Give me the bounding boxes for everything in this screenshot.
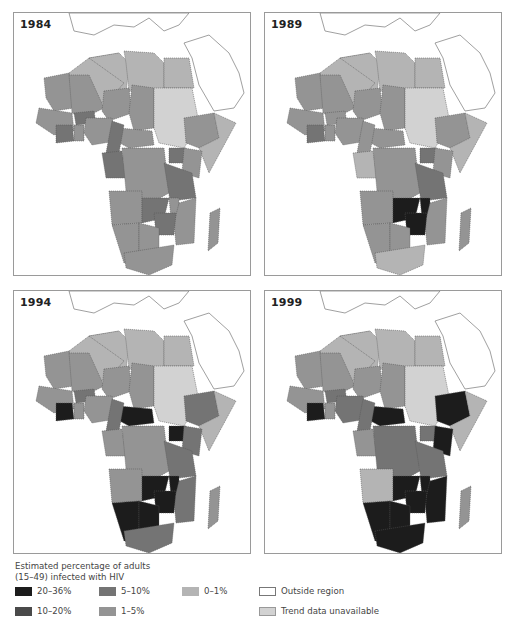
legend-title-line1: Estimated percentage of adults [15,561,150,572]
country-madagascar [459,486,471,529]
legend-item-1-5: 1–5% [99,606,144,616]
legend-item-10-20: 10–20% [15,606,71,616]
country-madagascar [208,486,220,529]
country-ghana [74,403,84,419]
year-label: 1984 [20,18,51,31]
legend-label: 1–5% [121,606,144,616]
year-label: 1999 [271,296,302,309]
swatch-10-20 [15,607,32,616]
country-egypt [164,58,194,88]
swatch-outside-region [259,587,276,596]
legend-item-0-1: 0–1% [182,586,227,596]
country-chad [380,85,405,131]
year-label: 1994 [20,296,51,309]
swatch-5-10 [99,587,116,596]
legend-label: 0–1% [204,586,227,596]
country-ghana [325,125,335,141]
map-panel-1989: 1989 [264,12,502,276]
legend-label: Outside region [281,586,344,596]
country-madagascar [459,208,471,251]
country-ivory [307,125,325,143]
country-niger [102,366,132,399]
legend-title: Estimated percentage of adults (15–49) i… [15,561,150,582]
country-egypt [164,336,194,366]
country-chad [129,363,154,409]
country-gabon [102,151,126,178]
country-niger [353,88,383,121]
country-angola [360,191,393,225]
map-panel-1984: 1984 [13,12,251,276]
map-panel-1999: 1999 [264,290,502,554]
country-madagascar [208,208,220,251]
country-angola [360,469,393,503]
legend-label: 20–36% [37,586,71,596]
country-egypt [415,58,445,88]
legend-label: 10–20% [37,606,71,616]
legend-item-5-10: 5–10% [99,586,150,596]
legend-item-outside-region: Outside region [259,586,344,596]
africa-map-1999 [265,291,502,554]
legend-item-trend-unavailable: Trend data unavailable [259,606,379,616]
country-ivory [307,403,325,421]
country-chad [129,85,154,131]
africa-map-1994 [14,291,251,554]
country-ghana [325,403,335,419]
country-angola [109,191,142,225]
africa-map-1989 [265,13,502,276]
swatch-20-36 [15,587,32,596]
legend-title-line2: (15–49) infected with HIV [15,572,150,583]
legend-label: 5–10% [121,586,150,596]
country-gabon [353,151,377,178]
country-chad [380,363,405,409]
swatch-0-1 [182,587,199,596]
country-ivory [56,403,74,421]
swatch-trend-unavailable [259,607,276,616]
year-label: 1989 [271,18,302,31]
country-egypt [415,336,445,366]
legend-label: Trend data unavailable [281,606,379,616]
country-ghana [74,125,84,141]
country-gabon [353,429,377,456]
map-legend: Estimated percentage of adults (15–49) i… [15,561,505,627]
legend-item-20-36: 20–36% [15,586,71,596]
swatch-1-5 [99,607,116,616]
country-angola [109,469,142,503]
country-niger [102,88,132,121]
africa-map-1984 [14,13,251,276]
country-niger [353,366,383,399]
country-ivory [56,125,74,143]
map-panel-1994: 1994 [13,290,251,554]
country-gabon [102,429,126,456]
